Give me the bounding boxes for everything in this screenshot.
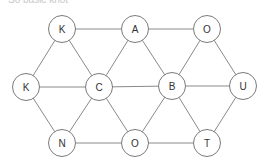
node-label: A xyxy=(132,24,139,35)
node-label: K xyxy=(23,82,30,93)
graph-diagram: KAOKCBUNOT xyxy=(0,0,269,165)
node-label: N xyxy=(58,138,65,149)
node-label: B xyxy=(169,81,176,92)
node-o: O xyxy=(122,130,149,157)
node-a: A xyxy=(122,16,149,43)
node-k: K xyxy=(13,74,40,101)
node-label: C xyxy=(95,82,102,93)
node-t: T xyxy=(194,130,221,157)
node-n: N xyxy=(49,130,76,157)
node-c: C xyxy=(86,74,113,101)
node-u: U xyxy=(230,73,257,100)
node-label: T xyxy=(204,138,210,149)
node-o: O xyxy=(194,16,221,43)
node-label: O xyxy=(131,138,139,149)
edges-layer xyxy=(26,29,243,143)
node-label: O xyxy=(203,24,211,35)
node-label: K xyxy=(59,24,66,35)
node-label: U xyxy=(239,81,246,92)
node-k: K xyxy=(49,16,76,43)
node-b: B xyxy=(159,73,186,100)
